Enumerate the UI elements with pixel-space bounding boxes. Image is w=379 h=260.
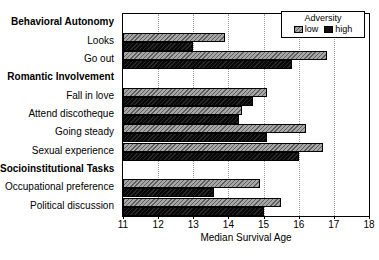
gridline: [334, 14, 335, 216]
legend-swatch-low-icon: [294, 26, 303, 33]
x-tick-label: 18: [357, 219, 379, 230]
legend-item-low: low: [294, 24, 319, 35]
bar-high: [123, 207, 264, 216]
legend-swatch-high-icon: [324, 26, 333, 33]
bar-high: [123, 188, 214, 197]
category-label: Go out: [0, 53, 114, 64]
category-label: Fall in love: [0, 90, 114, 101]
bar-high: [123, 60, 292, 69]
bar-low: [123, 106, 242, 115]
gridline: [299, 14, 300, 216]
x-tick-label: 14: [216, 219, 240, 230]
category-label: Sexual experience: [0, 145, 114, 156]
bar-low: [123, 33, 225, 42]
legend-items: low high: [284, 24, 362, 35]
category-label: Behavioral Autonomy: [0, 16, 114, 27]
category-label: Occupational preference: [0, 181, 114, 192]
bar-high: [123, 115, 239, 124]
bar-low: [123, 51, 327, 60]
legend-label-low: low: [305, 24, 319, 35]
category-label: Looks: [0, 35, 114, 46]
bar-low: [123, 88, 267, 97]
category-label: Political discussion: [0, 200, 114, 211]
x-tick-label: 11: [111, 219, 135, 230]
bar-high: [123, 42, 193, 51]
x-axis-title: Median Survival Age: [122, 232, 370, 243]
x-axis-ticks: 1112131415161718: [122, 216, 370, 230]
survival-age-bar-chart: Behavioral AutonomyLooksGo outRomantic I…: [0, 0, 379, 260]
bar-high: [123, 152, 299, 161]
category-axis-labels: Behavioral AutonomyLooksGo outRomantic I…: [0, 13, 118, 215]
legend: Adversity low high: [281, 11, 365, 38]
category-label: Going steady: [0, 126, 114, 137]
bar-low: [123, 198, 281, 207]
x-tick-label: 15: [252, 219, 276, 230]
x-tick-label: 12: [146, 219, 170, 230]
category-label: Romantic Involvement: [0, 71, 114, 82]
bar-low: [123, 124, 306, 133]
x-tick-label: 13: [181, 219, 205, 230]
bar-high: [123, 133, 267, 142]
legend-label-high: high: [335, 24, 352, 35]
category-label: Socioinstitutional Tasks: [0, 163, 114, 174]
bar-low: [123, 179, 260, 188]
legend-item-high: high: [324, 24, 352, 35]
bar-high: [123, 97, 253, 106]
plot-area: [122, 13, 370, 217]
legend-title: Adversity: [284, 13, 362, 24]
category-label: Attend discotheque: [0, 108, 114, 119]
gridline: [264, 14, 265, 216]
plot-inner: [123, 14, 369, 216]
x-tick-label: 17: [322, 219, 346, 230]
bar-low: [123, 143, 323, 152]
x-tick-label: 16: [287, 219, 311, 230]
